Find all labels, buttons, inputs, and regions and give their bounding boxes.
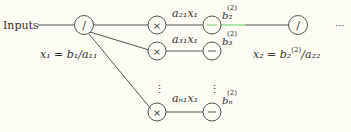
- vdots-sub: ⋮: [209, 83, 220, 96]
- x2-caption: x₂ = b₂(2)/a₂₂: [253, 46, 320, 61]
- div2-node: /: [289, 16, 308, 35]
- x1-caption: x₁ = b₁/a₁₁: [40, 48, 97, 61]
- b2-sup: (2): [227, 4, 237, 12]
- times-icon: ×: [153, 20, 161, 31]
- times-icon: ×: [153, 107, 161, 118]
- bn-sup: (2): [227, 89, 237, 97]
- mul2-node: ×: [148, 16, 166, 34]
- gaussian-elimination-diagram: / × × × / Inputs x₁ = b₁/a₁₁ a₂₁x₁ a₃₁x₁…: [0, 0, 351, 132]
- inputs-label: Inputs: [3, 19, 39, 32]
- sub2-node: [203, 16, 221, 34]
- subn-node: [203, 103, 221, 121]
- times-icon: ×: [153, 46, 161, 57]
- vdots-mul: ⋮: [154, 83, 165, 96]
- div1-node: /: [75, 16, 94, 35]
- edge-div1-muln: [89, 34, 151, 109]
- continuation-dots: ···: [335, 20, 345, 31]
- b3-sup: (2): [227, 30, 237, 38]
- an1x1-label: aₙ₁x₁: [172, 92, 198, 105]
- div-icon: /: [82, 19, 86, 32]
- sub3-node: [203, 42, 221, 60]
- a31x1-label: a₃₁x₁: [172, 33, 198, 46]
- a21x1-label: a₂₁x₁: [172, 7, 198, 20]
- mul3-node: ×: [148, 42, 166, 60]
- edge-div1-mul3: [90, 32, 149, 50]
- muln-node: ×: [148, 103, 166, 121]
- div-icon: /: [296, 19, 300, 32]
